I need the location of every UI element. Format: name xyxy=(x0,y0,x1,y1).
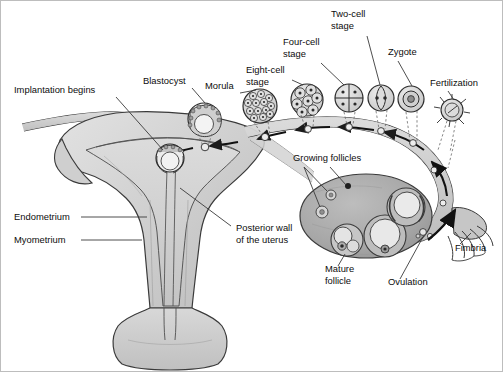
implanting-blastocyst xyxy=(156,144,184,173)
label-implantation-begins: Implantation begins xyxy=(14,84,96,95)
label-blastocyst: Blastocyst xyxy=(143,75,186,86)
ovary xyxy=(300,174,433,258)
image-frame xyxy=(1,1,503,372)
label-fimbria: Fimbria xyxy=(455,242,487,253)
leader-zygote xyxy=(398,61,412,86)
leader-two-cell-stage xyxy=(367,36,380,85)
label-eight-cell-stage-line2: stage xyxy=(246,76,269,87)
zygote-cell xyxy=(398,86,424,112)
reproductive-system-illustration: Implantation begins Blastocyst Morula Ei… xyxy=(0,0,503,372)
corpus-luteum xyxy=(387,188,425,226)
label-growing-follicles: Growing follicles xyxy=(293,152,362,163)
label-two-cell-stage-line1: Two-cell xyxy=(331,8,365,19)
blastocyst-cell xyxy=(188,103,221,137)
diagram-canvas: Implantation begins Blastocyst Morula Ei… xyxy=(0,0,503,372)
label-zygote: Zygote xyxy=(388,46,417,57)
label-endometrium: Endometrium xyxy=(14,211,70,222)
label-mature-follicle-line1: Mature xyxy=(325,263,354,274)
two-cell-stage-cell xyxy=(368,85,394,111)
label-four-cell-stage-line1: Four-cell xyxy=(283,36,319,47)
label-mature-follicle-line2: follicle xyxy=(325,275,351,286)
fertilization-cell xyxy=(434,94,470,127)
label-myometrium: Myometrium xyxy=(14,234,66,245)
growing-follicle-dot xyxy=(345,183,351,189)
morula-cell xyxy=(243,89,277,123)
growing-follicle-small-1 xyxy=(326,190,336,200)
label-four-cell-stage-line2: stage xyxy=(283,48,306,59)
label-posterior-wall-line1: Posterior wall xyxy=(236,222,292,233)
uterus-body xyxy=(55,112,265,308)
label-fertilization: Fertilization xyxy=(430,77,478,88)
label-posterior-wall-line2: of the uterus xyxy=(236,234,288,245)
leader-blastocyst xyxy=(192,88,205,103)
leader-four-cell-stage xyxy=(321,63,344,85)
label-eight-cell-stage-line1: Eight-cell xyxy=(246,64,285,75)
label-morula: Morula xyxy=(205,80,234,91)
eight-cell-stage-cell xyxy=(291,84,323,117)
label-ovulation: Ovulation xyxy=(388,276,428,287)
cervix-and-vagina xyxy=(113,308,227,370)
growing-follicle-small-2 xyxy=(316,206,328,218)
four-cell-stage-cell xyxy=(335,84,363,112)
leader-eight-cell-stage xyxy=(292,80,303,85)
label-two-cell-stage-line2: stage xyxy=(331,20,354,31)
mature-follicle xyxy=(331,224,363,256)
